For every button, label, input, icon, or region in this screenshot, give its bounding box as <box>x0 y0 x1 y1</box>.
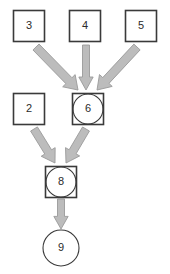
node-label-3: 3 <box>26 19 32 31</box>
node-6[interactable]: 6 <box>73 94 104 125</box>
edges-layer <box>31 44 141 229</box>
node-label-9: 9 <box>58 241 64 253</box>
node-4[interactable]: 4 <box>70 11 101 42</box>
node-8[interactable]: 8 <box>46 167 77 198</box>
diagram-canvas: 3452689 <box>0 0 170 274</box>
edge-arrow-n4-to-n6 <box>79 45 93 90</box>
edge-arrow-n6-to-n8 <box>66 127 90 163</box>
node-9[interactable]: 9 <box>43 230 79 266</box>
edge-arrow-n8-to-n9 <box>54 199 68 229</box>
node-label-5: 5 <box>138 19 144 31</box>
node-label-6: 6 <box>85 102 91 114</box>
node-5[interactable]: 5 <box>126 11 157 42</box>
node-2[interactable]: 2 <box>14 94 45 125</box>
edge-arrow-n2-to-n8 <box>31 127 56 163</box>
edge-arrow-n3-to-n6 <box>33 44 78 90</box>
diagram-svg: 3452689 <box>0 0 170 274</box>
node-label-4: 4 <box>82 19 88 31</box>
node-label-2: 2 <box>26 102 32 114</box>
node-3[interactable]: 3 <box>14 11 45 42</box>
edge-arrow-n5-to-n6 <box>97 44 140 90</box>
node-label-8: 8 <box>58 175 64 187</box>
